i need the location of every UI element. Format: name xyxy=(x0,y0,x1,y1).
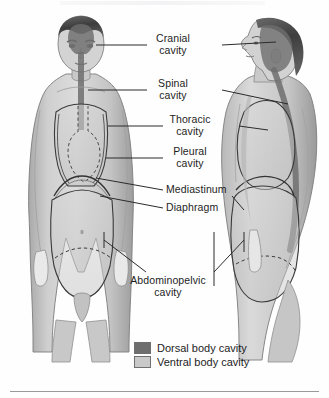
legend-item-ventral: Ventral body cavity xyxy=(134,355,249,369)
label-diaphragm: Diaphragm xyxy=(166,202,218,214)
label-pleural-cavity: Pleural cavity xyxy=(166,146,214,169)
label-spinal-cavity: Spinal cavity xyxy=(151,78,195,101)
lateral-mouth xyxy=(246,56,254,57)
label-thoracic-cavity: Thoracic cavity xyxy=(164,114,216,137)
legend-label-dorsal: Dorsal body cavity xyxy=(157,342,247,354)
legend-swatch-ventral xyxy=(134,356,151,368)
legend-item-dorsal: Dorsal body cavity xyxy=(134,341,249,355)
anatomy-figure-body-cavities: Cranial cavity Spinal cavity Thoracic ca… xyxy=(0,0,329,398)
anterior-groin xyxy=(74,293,90,322)
bottom-divider-rule xyxy=(10,391,319,392)
anterior-leg-right xyxy=(52,320,76,362)
anterior-figure xyxy=(29,16,134,362)
legend-swatch-dorsal xyxy=(134,342,151,354)
label-abdominopelvic-cavity: Abdominopelvic cavity xyxy=(121,275,215,298)
anterior-leg-left xyxy=(86,320,110,362)
legend-label-ventral: Ventral body cavity xyxy=(157,356,249,368)
anterior-cranial-cavity xyxy=(68,24,94,54)
anterior-hand-right xyxy=(34,250,48,286)
anterior-navel xyxy=(80,230,83,235)
thoracic-cavity-outline xyxy=(55,104,108,186)
label-cranial-cavity: Cranial cavity xyxy=(151,33,195,56)
label-mediastinum: Mediastinum xyxy=(166,184,227,196)
body-cavities-illustration xyxy=(0,0,329,398)
legend: Dorsal body cavity Ventral body cavity xyxy=(134,341,249,369)
lateral-figure xyxy=(222,18,317,362)
